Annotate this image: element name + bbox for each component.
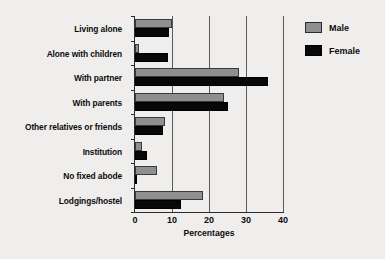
bar-male — [135, 166, 157, 175]
x-tick-label: 20 — [204, 215, 214, 225]
legend-item[interactable]: Female — [305, 45, 360, 56]
y-tick-mark — [131, 114, 135, 115]
x-tick-label: 0 — [132, 215, 137, 225]
y-tick-mark — [131, 188, 135, 189]
category-label: With parents — [0, 99, 122, 108]
y-tick-mark — [131, 212, 135, 213]
legend-label: Male — [329, 23, 349, 33]
x-tick-label: 30 — [241, 215, 251, 225]
y-tick-mark — [131, 163, 135, 164]
chart-legend: MaleFemale — [305, 22, 360, 68]
bar-female — [135, 175, 137, 184]
x-tick-label: 10 — [167, 215, 177, 225]
legend-swatch-icon — [305, 22, 322, 33]
y-tick-mark — [131, 139, 135, 140]
bar-female — [135, 53, 168, 62]
bar-female — [135, 77, 268, 86]
bar-male — [135, 44, 139, 53]
category-label: Lodgings/hostel — [0, 197, 122, 206]
category-label: With partner — [0, 74, 122, 83]
category-label: Institution — [0, 148, 122, 157]
bar-female — [135, 28, 169, 37]
bar-female — [135, 151, 147, 160]
x-axis-title: Percentages — [135, 228, 283, 238]
y-tick-mark — [131, 90, 135, 91]
bar-male — [135, 68, 239, 77]
plot-area: 010203040 — [135, 16, 283, 212]
bar-male — [135, 19, 172, 28]
legend-swatch-icon — [305, 45, 322, 56]
bar-chart: Living aloneAlone with childrenWith part… — [0, 0, 385, 259]
bar-female — [135, 126, 163, 135]
bar-female — [135, 102, 228, 111]
category-axis-labels: Living aloneAlone with childrenWith part… — [0, 18, 128, 210]
gridline — [172, 16, 173, 212]
gridline — [209, 16, 210, 212]
bar-male — [135, 117, 165, 126]
bar-male — [135, 93, 224, 102]
legend-label: Female — [329, 46, 360, 56]
x-tick-label: 40 — [278, 215, 288, 225]
category-label: Other relatives or friends — [0, 123, 122, 132]
x-axis-line — [134, 212, 284, 213]
gridline — [246, 16, 247, 212]
bar-female — [135, 200, 181, 209]
gridline — [283, 16, 284, 212]
y-tick-mark — [131, 65, 135, 66]
category-label: Alone with children — [0, 50, 122, 59]
legend-item[interactable]: Male — [305, 22, 360, 33]
category-label: No fixed abode — [0, 172, 122, 181]
bar-male — [135, 142, 142, 151]
category-label: Living alone — [0, 25, 122, 34]
bar-male — [135, 191, 203, 200]
y-tick-mark — [131, 16, 135, 17]
y-tick-mark — [131, 41, 135, 42]
